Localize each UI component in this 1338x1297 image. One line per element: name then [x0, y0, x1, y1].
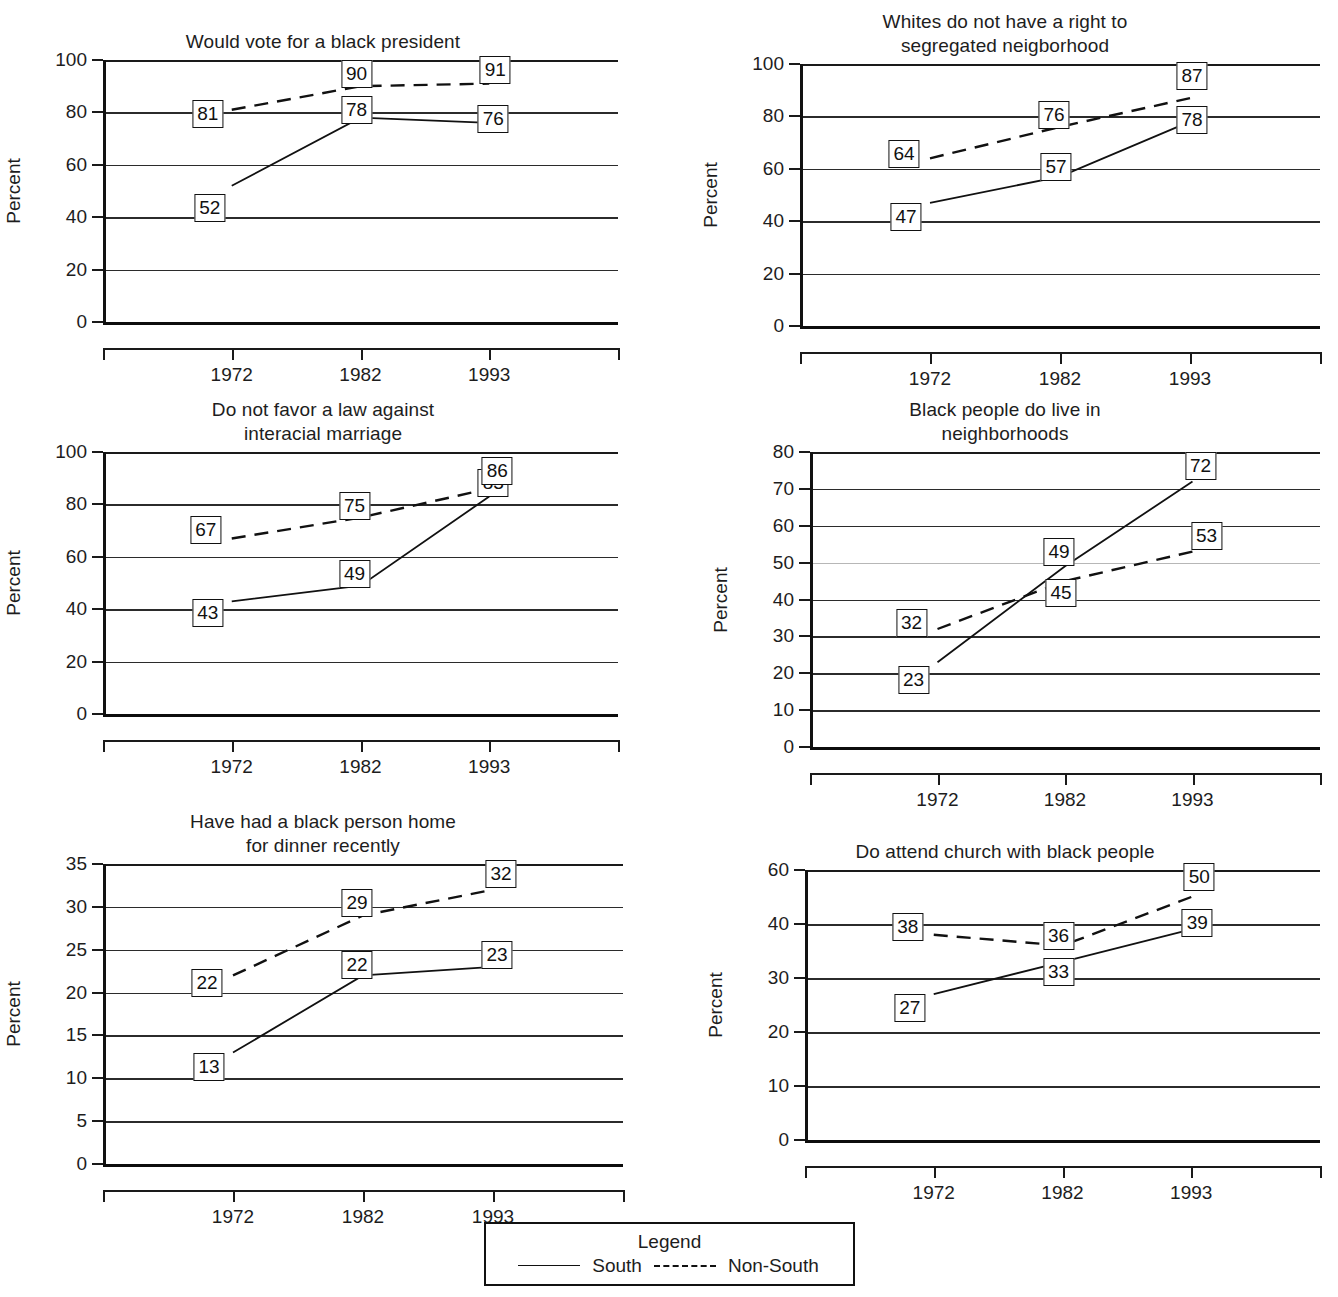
data-label: 36	[1043, 922, 1074, 950]
data-label: 49	[339, 560, 370, 588]
chart-title: Would vote for a black president	[43, 30, 603, 54]
chart-title: Whites do not have a right to segregated…	[725, 10, 1285, 58]
legend-entries: South Non-South	[518, 1254, 821, 1278]
data-label: 57	[1040, 153, 1071, 181]
data-label: 52	[194, 194, 225, 222]
data-label: 50	[1184, 863, 1215, 891]
data-label: 32	[485, 860, 516, 888]
plot-area: Percent010203040601972198219932733393836…	[680, 870, 1338, 1220]
series-lines	[680, 870, 1338, 1200]
data-label: 38	[892, 913, 923, 941]
series-lines	[680, 64, 1338, 386]
data-label: 49	[1043, 538, 1074, 566]
chart-title: Do attend church with black people	[725, 840, 1285, 864]
data-label: 76	[478, 105, 509, 133]
data-label: 87	[1176, 62, 1207, 90]
chart-title: Black people do live in neighborhoods	[725, 398, 1285, 446]
series-lines	[8, 60, 663, 382]
data-label: 81	[192, 100, 223, 128]
data-label: 91	[480, 56, 511, 84]
plot-area: Percent020406080100197219821993527876819…	[8, 60, 663, 402]
chart-title: Have had a black person home for dinner …	[43, 810, 603, 858]
chart-panel-3: Do not favor a law against interacial ma…	[8, 398, 663, 794]
data-label: 43	[192, 599, 223, 627]
legend: Legend South Non-South	[484, 1222, 855, 1286]
chart-grid: Would vote for a black presidentPercent0…	[0, 0, 1338, 1215]
data-label: 23	[898, 666, 929, 694]
series-lines	[8, 864, 680, 1224]
data-label: 39	[1182, 909, 1213, 937]
series-line-south	[233, 967, 493, 1053]
legend-swatch-south-icon	[518, 1265, 580, 1266]
data-label: 72	[1185, 452, 1216, 480]
data-label: 22	[341, 951, 372, 979]
chart-panel-6: Do attend church with black peoplePercen…	[680, 840, 1338, 1220]
data-label: 33	[1043, 958, 1074, 986]
data-label: 67	[190, 516, 221, 544]
legend-swatch-non-south-icon	[654, 1265, 716, 1267]
data-label: 53	[1191, 522, 1222, 550]
data-label: 75	[339, 492, 370, 520]
plot-area: Percent020406080100197219821993434983677…	[8, 452, 663, 794]
plot-area: Percent010203040506070801972198219932349…	[680, 452, 1338, 827]
data-label: 78	[1176, 106, 1207, 134]
data-label: 90	[341, 60, 372, 88]
chart-panel-2: Whites do not have a right to segregated…	[680, 10, 1338, 406]
data-label: 13	[193, 1053, 224, 1081]
chart-panel-4: Black people do live in neighborhoodsPer…	[680, 398, 1338, 827]
chart-title: Do not favor a law against interacial ma…	[43, 398, 603, 446]
chart-panel-5: Have had a black person home for dinner …	[8, 810, 680, 1244]
legend-title: Legend	[638, 1231, 701, 1253]
series-line-south	[232, 118, 490, 186]
plot-area: Percent020406080100197219821993475778647…	[680, 64, 1338, 406]
series-lines	[680, 452, 1338, 807]
legend-label-south: South	[590, 1254, 644, 1278]
data-label: 32	[896, 609, 927, 637]
data-label: 22	[191, 969, 222, 997]
data-label: 86	[482, 457, 513, 485]
data-label: 47	[890, 203, 921, 231]
chart-panel-1: Would vote for a black presidentPercent0…	[8, 30, 663, 402]
data-label: 27	[894, 994, 925, 1022]
series-line-south	[938, 482, 1193, 663]
data-label: 23	[481, 941, 512, 969]
data-label: 76	[1038, 101, 1069, 129]
data-label: 45	[1045, 579, 1076, 607]
series-lines	[8, 452, 663, 774]
plot-area: Percent051015202530351972198219931322232…	[8, 864, 680, 1244]
data-label: 64	[888, 140, 919, 168]
data-label: 78	[341, 96, 372, 124]
legend-label-non-south: Non-South	[726, 1254, 821, 1278]
data-label: 29	[341, 889, 372, 917]
